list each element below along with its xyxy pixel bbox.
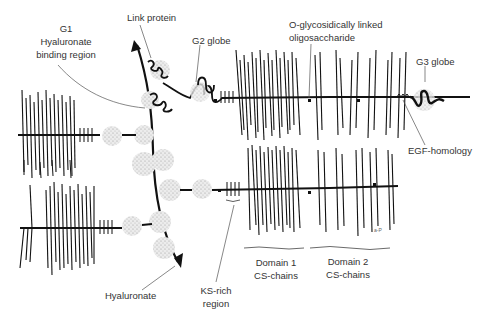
artist-signature: a-P — [374, 224, 382, 237]
label-g1-line1: G1 — [22, 22, 110, 35]
label-ks-rich-region: KS-rich region — [194, 284, 238, 310]
label-domain2-line1: Domain 2 — [322, 255, 374, 268]
label-g2-globe: G2 globe — [192, 34, 231, 47]
domain1-brace — [244, 247, 304, 249]
label-o-glycosidically-linked: O-glycosidically linked oligosaccharide — [289, 18, 382, 44]
label-hyaluronate: Hyaluronate — [105, 289, 156, 302]
upper-domain2-cs-chains — [315, 50, 406, 140]
label-g1-line2: Hyaluronate — [22, 35, 110, 48]
label-domain1: Domain 1 CS-chains — [250, 256, 302, 282]
label-g3-globe: G3 globe — [416, 55, 455, 68]
label-domain2: Domain 2 CS-chains — [322, 255, 374, 281]
label-domain2-line2: CS-chains — [322, 268, 374, 281]
lower-domain2-cs-chains — [318, 148, 394, 236]
domain2-brace — [310, 247, 390, 250]
label-o-glyco-line2: oligosaccharide — [289, 31, 382, 44]
label-domain1-line2: CS-chains — [250, 269, 302, 282]
label-g1-line3: binding region — [22, 48, 110, 61]
label-g1: G1 Hyaluronate binding region — [22, 22, 110, 61]
label-domain1-line1: Domain 1 — [250, 256, 302, 269]
label-ks-line2: region — [194, 297, 238, 310]
label-link-protein: Link protein — [127, 11, 176, 24]
upper-domain1-cs-chains — [236, 50, 300, 140]
left-lower-aggrecan — [20, 182, 152, 275]
label-ks-line1: KS-rich — [194, 284, 238, 297]
label-egf-homology: EGF-homology — [408, 144, 472, 157]
label-o-glyco-line1: O-glycosidically linked — [289, 18, 382, 31]
